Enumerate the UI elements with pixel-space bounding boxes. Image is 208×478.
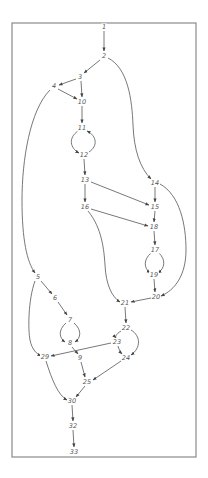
node-label: 29 [41, 353, 49, 361]
node-19: 19 [149, 271, 159, 279]
edge-11-to-12 [71, 131, 79, 153]
node-33: 33 [69, 448, 79, 456]
node-label: 19 [150, 271, 158, 279]
edge-24-to-25 [93, 361, 121, 380]
node-label: 17 [151, 246, 160, 254]
edge-5-to-6 [41, 281, 52, 294]
edge-12-to-11 [87, 131, 95, 152]
node-label: 1 [102, 23, 106, 31]
node-label: 10 [78, 98, 86, 106]
node-label: 20 [152, 293, 160, 301]
node-20: 20 [151, 293, 161, 301]
node-16: 16 [80, 203, 90, 211]
nodes-group: 1234101112131415161817192021222324567892… [35, 23, 161, 456]
node-label: 24 [122, 354, 130, 362]
node-17: 17 [150, 246, 160, 254]
edge-16-to-21 [88, 211, 120, 302]
node-label: 16 [81, 203, 89, 211]
node-5: 5 [35, 273, 41, 281]
node-label: 23 [113, 338, 121, 346]
node-label: 32 [69, 422, 77, 430]
node-label: 25 [83, 378, 91, 386]
node-21: 21 [120, 299, 130, 307]
node-24: 24 [121, 354, 131, 362]
node-2: 2 [101, 52, 107, 60]
node-label: 2 [102, 52, 106, 60]
node-label: 11 [78, 124, 86, 132]
edges-group [22, 31, 186, 447]
node-22: 22 [121, 324, 131, 332]
node-label: 21 [121, 299, 129, 307]
node-3: 3 [77, 73, 83, 81]
node-label: 30 [68, 397, 76, 405]
node-12: 12 [79, 151, 89, 159]
node-label: 6 [53, 294, 57, 302]
edge-7-to-8 [60, 323, 66, 342]
node-label: 3 [78, 73, 82, 81]
edge-20-to-21 [131, 298, 151, 302]
node-label: 12 [80, 151, 88, 159]
node-4: 4 [51, 82, 57, 90]
node-18: 18 [149, 223, 159, 231]
edge-3-to-10 [81, 81, 82, 97]
node-label: 9 [78, 354, 82, 362]
edge-14-to-20 [160, 184, 186, 296]
edge-16-to-18 [91, 209, 148, 226]
node-15: 15 [150, 203, 160, 211]
flow-graph-diagram: 1234101112131415161817192021222324567892… [0, 0, 208, 478]
node-label: 4 [52, 82, 56, 90]
edge-22-to-24 [131, 330, 139, 355]
node-1: 1 [101, 23, 107, 31]
edge-21-to-22 [125, 307, 126, 323]
edge-7-to-8 [74, 323, 80, 342]
node-label: 18 [150, 223, 158, 231]
node-label: 5 [36, 273, 40, 281]
node-29: 29 [40, 353, 50, 361]
node-11: 11 [77, 124, 87, 132]
node-label: 33 [70, 448, 78, 456]
edge-15-to-18 [154, 211, 155, 222]
edge-2-to-3 [84, 60, 100, 73]
node-7: 7 [67, 316, 73, 324]
node-label: 14 [151, 179, 159, 187]
node-8: 8 [67, 339, 73, 347]
edge-13-to-15 [91, 182, 149, 205]
node-label: 22 [122, 324, 130, 332]
diagram-frame [12, 23, 196, 457]
edge-19-to-20 [154, 279, 155, 292]
node-32: 32 [68, 422, 78, 430]
edge-3-to-4 [59, 79, 76, 85]
node-label: 8 [68, 339, 72, 347]
edge-18-to-17 [154, 231, 155, 245]
edge-32-to-33 [73, 430, 74, 447]
edge-30-to-32 [72, 405, 73, 421]
edge-12-to-13 [84, 159, 85, 175]
node-23: 23 [112, 338, 122, 346]
node-label: 13 [81, 176, 89, 184]
edge-25-to-30 [76, 386, 85, 397]
edge-2-to-14 [108, 58, 151, 179]
edge-29-to-30 [46, 361, 67, 400]
node-13: 13 [80, 176, 90, 184]
node-9: 9 [77, 354, 83, 362]
node-25: 25 [82, 378, 92, 386]
node-6: 6 [52, 294, 58, 302]
node-30: 30 [67, 397, 77, 405]
edge-9-to-25 [81, 362, 85, 377]
edge-4-to-10 [58, 89, 77, 99]
edge-4-to-5 [22, 90, 50, 273]
node-10: 10 [77, 98, 87, 106]
node-label: 15 [151, 203, 159, 211]
edge-5-to-29 [29, 281, 41, 356]
edge-17-to-19 [158, 253, 164, 273]
edge-6-to-7 [58, 302, 67, 315]
node-14: 14 [150, 179, 160, 187]
